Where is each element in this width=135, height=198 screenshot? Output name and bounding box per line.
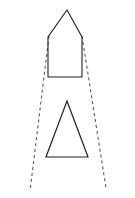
projection-diagram: Projection diagram Pentagon house shape …	[0, 0, 135, 198]
figure-background	[0, 0, 135, 198]
